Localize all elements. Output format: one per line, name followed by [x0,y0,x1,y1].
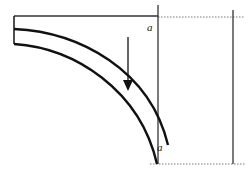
load-arrow-head [123,80,133,91]
curved-beam-diagram: a a [0,0,252,173]
label-a-top: a [147,21,153,33]
lower-arc [14,44,157,164]
label-a-bottom: a [157,141,163,153]
